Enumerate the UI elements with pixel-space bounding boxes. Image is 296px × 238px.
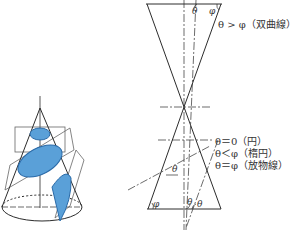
theta-label-middle: θ [172,164,177,174]
theta-label-bottom-2: θ [197,199,202,209]
hyperbola-condition: θ > φ（双曲線） [218,19,296,31]
theta-label-bottom-1: θ [187,197,192,207]
condition-ellipse: θ＜φ（楕円） [215,148,278,160]
phi-label-bottom: φ [153,199,159,209]
theta-label-top: θ [192,6,197,16]
cone-figure [2,96,84,221]
phi-label-top: φ [209,6,215,16]
conic-sections-diagram [0,0,296,238]
double-cone-section [128,0,222,230]
condition-parabola: θ＝φ（放物線） [215,160,288,172]
condition-circle: θ＝0（円） [215,136,267,148]
